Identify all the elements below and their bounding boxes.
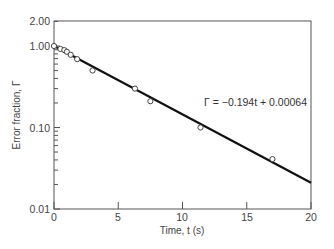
y-tick-label-1: 1.00 (30, 40, 51, 52)
x-axis-ticks (54, 202, 311, 209)
fit-line (54, 46, 311, 183)
data-point (51, 43, 56, 48)
data-point (90, 68, 95, 73)
x-tick-label-10: 10 (176, 211, 188, 223)
y-tick-label-2: 2.00 (30, 15, 51, 27)
data-point (270, 156, 275, 161)
data-point (148, 99, 153, 104)
data-point (198, 125, 203, 130)
fit-equation: Γ = −0.194t + 0.00064 (204, 96, 307, 108)
data-point (132, 86, 137, 91)
y-tick-label-0.1: 0.10 (30, 122, 51, 134)
x-tick-label-15: 15 (241, 211, 253, 223)
y-tick-label-0.01: 0.01 (30, 203, 51, 215)
x-tick-label-5: 5 (115, 211, 121, 223)
chart: 2.00 1.00 0.10 0.01 0 5 10 15 20 Time, t… (0, 0, 334, 249)
y-axis-title: Error fraction, Γ (11, 80, 22, 149)
x-tick-label-20: 20 (305, 211, 317, 223)
x-axis-title: Time, t (s) (160, 225, 205, 236)
data-point (68, 52, 73, 57)
data-point (75, 57, 80, 62)
x-tick-label-0: 0 (51, 211, 57, 223)
